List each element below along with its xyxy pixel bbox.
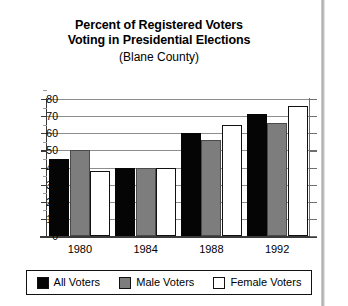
x-axis-label: 1980 [45,243,115,255]
bar-group [181,99,242,236]
legend-item: Male Voters [119,277,194,289]
bar [136,168,156,237]
y-axis-right-tick [310,150,317,151]
y-axis-right-tick [310,133,317,134]
legend-item: Female Voters [213,277,301,289]
bar [288,106,308,236]
bar [156,168,176,237]
y-axis-right-tick [310,236,317,237]
y-axis-right-tick [310,168,317,169]
legend-swatch-icon [37,277,49,289]
legend-swatch-icon [213,277,225,289]
legend-label: All Voters [54,277,100,288]
y-axis-right-tick [310,99,317,100]
legend-swatch-icon [119,277,131,289]
chart-page: Percent of Registered Voters Voting in P… [0,0,348,306]
x-axis-line [40,236,317,238]
x-axis-label: 1992 [242,243,312,255]
bar [247,114,267,236]
plot-wrapper: 01020304050607080 1980198419881992 [0,0,348,306]
x-axis-label: 1984 [111,243,181,255]
bar [90,171,110,236]
bar-groups [47,99,310,236]
legend-label: Female Voters [230,277,301,288]
bar-group [115,99,176,236]
chart-legend: All VotersMale VotersFemale Voters [26,270,312,295]
bar [267,123,287,236]
y-axis-right-tick [310,219,317,220]
bar [70,150,90,236]
y-axis-minor-tick [43,90,47,91]
legend-label: Male Voters [136,277,194,288]
y-axis-right-tick [310,116,317,117]
bar [222,125,242,236]
x-axis-label: 1988 [176,243,246,255]
bar [201,140,221,236]
bar [181,133,201,236]
bar [49,159,69,236]
bar-group [49,99,110,236]
y-axis-right-tick [310,185,317,186]
legend-item: All Voters [37,277,100,289]
bar-group [247,99,308,236]
bar [115,168,135,237]
y-axis-right-tick [310,202,317,203]
